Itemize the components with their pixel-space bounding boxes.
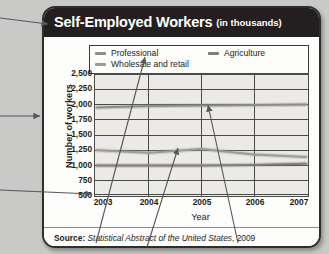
y-tick-label: 500	[60, 190, 92, 200]
legend-item-professional: Professional	[95, 48, 158, 58]
y-axis-ticks: 2,500 2,250 2,000 1,750 1,500 1,250 1,00…	[60, 73, 92, 195]
chart-body: Professional Wholesale and retail Agricu…	[44, 37, 319, 246]
legend-swatch-icon	[208, 52, 219, 55]
x-tick-label: 2007	[290, 197, 309, 207]
plot-area	[94, 73, 309, 197]
legend-swatch-icon	[95, 63, 106, 66]
series-lines	[95, 74, 308, 196]
legend-swatch-icon	[95, 52, 106, 55]
page-title-units: (in thousands)	[216, 17, 281, 28]
source-year: , 2009	[232, 233, 255, 243]
figure-root: Self-Employed Workers (in thousands) Pro…	[0, 0, 329, 254]
legend-item-wholesale-and-retail: Wholesale and retail	[95, 59, 189, 69]
y-tick-label: 1,000	[60, 160, 92, 170]
y-tick-label: 2,000	[60, 99, 92, 109]
legend-label: Professional	[111, 48, 158, 58]
source-note: Source: Statistical Abstract of the Unit…	[54, 233, 255, 243]
figure-title-bar: Self-Employed Workers (in thousands)	[42, 6, 321, 37]
y-tick-label: 2,250	[60, 83, 92, 93]
legend-label: Wholesale and retail	[111, 59, 189, 69]
leader-line-title	[0, 18, 48, 24]
y-tick-label: 1,500	[60, 129, 92, 139]
chart-legend: Professional Wholesale and retail Agricu…	[89, 45, 309, 74]
x-tick-label: 2006	[246, 197, 265, 207]
page-title: Self-Employed Workers	[54, 14, 212, 30]
source-label: Source:	[54, 233, 85, 243]
y-tick-label: 2,500	[60, 68, 92, 78]
y-tick-label: 1,750	[60, 114, 92, 124]
divider	[44, 227, 319, 228]
legend-item-agriculture: Agriculture	[208, 48, 265, 58]
x-axis-title: Year	[94, 212, 307, 222]
x-tick-label: 2004	[140, 197, 159, 207]
source-text: Statistical Abstract of the United State…	[88, 233, 232, 243]
y-tick-label: 750	[60, 175, 92, 185]
figure-card: Self-Employed Workers (in thousands) Pro…	[42, 6, 321, 248]
x-tick-label: 2003	[94, 197, 113, 207]
legend-label: Agriculture	[224, 48, 265, 58]
y-tick-label: 1,250	[60, 144, 92, 154]
x-tick-label: 2005	[193, 197, 212, 207]
x-axis-ticks: 2003 2004 2005 2006 2007	[94, 197, 307, 211]
